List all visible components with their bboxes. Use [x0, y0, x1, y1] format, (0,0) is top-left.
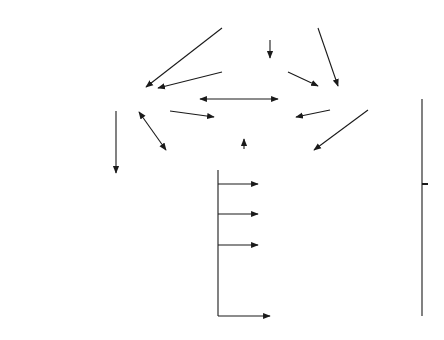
edge-organization-orgunit — [314, 110, 368, 150]
edge-country-locality — [158, 72, 222, 88]
edges — [116, 28, 428, 316]
edge-root-locality — [146, 28, 222, 87]
edge-country-organization — [288, 72, 318, 86]
edge-organization-groupofnames — [296, 110, 330, 117]
edge-root-organization — [318, 28, 338, 86]
directory-tree-diagram — [0, 0, 444, 340]
edge-locality-orgunit — [139, 112, 166, 150]
edge-locality-groupofnames — [170, 111, 214, 117]
